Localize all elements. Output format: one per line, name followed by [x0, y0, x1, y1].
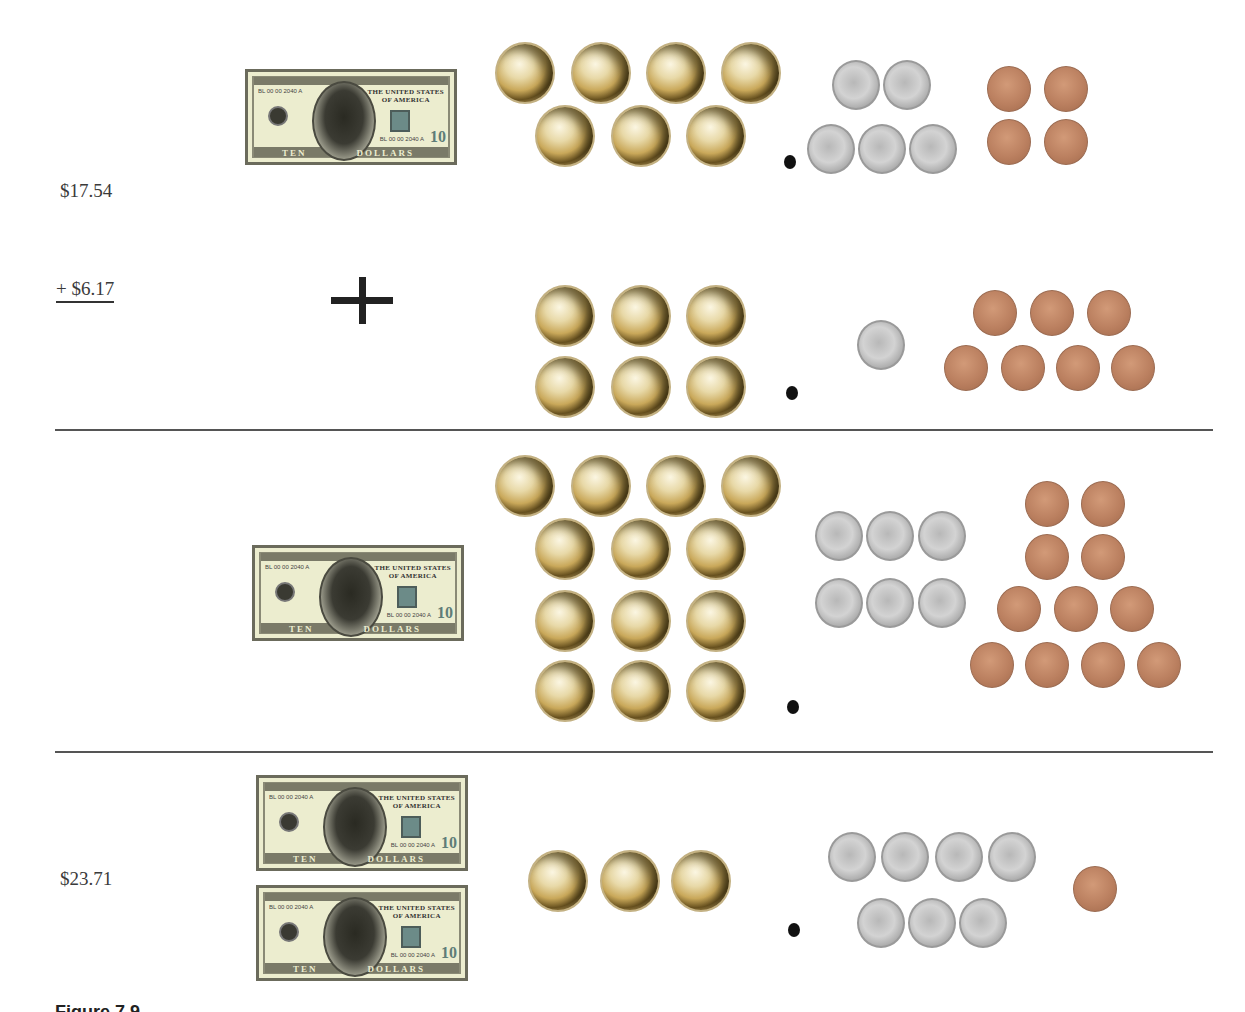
dollar-coin: [495, 455, 555, 517]
dime: [815, 511, 863, 561]
divider-line: [55, 751, 1213, 753]
dollar-coin: [535, 590, 595, 652]
ten-dollar-bill: BL 00 00 2040 A THE UNITED STATESOF AMER…: [256, 775, 468, 871]
dollar-coin: [535, 285, 595, 347]
dime: [866, 511, 914, 561]
dime: [918, 511, 966, 561]
ten-dollar-bill: BL 00 00 2040 A THE UNITED STATESOF AMER…: [252, 545, 464, 641]
dollar-coin: [646, 42, 706, 104]
dollar-coin: [686, 660, 746, 722]
penny: [1073, 866, 1117, 912]
dollar-coin: [686, 285, 746, 347]
dime: [909, 124, 957, 174]
amount-label-17-54: $17.54: [60, 180, 112, 202]
dollar-coin: [535, 105, 595, 167]
penny: [1081, 642, 1125, 688]
dollar-coin: [611, 105, 671, 167]
dollar-coin: [686, 590, 746, 652]
penny: [1110, 586, 1154, 632]
dollar-coin: [611, 356, 671, 418]
dollar-coin: [611, 518, 671, 580]
seal-icon: [268, 106, 288, 126]
dollar-coin: [528, 850, 588, 912]
penny: [987, 66, 1031, 112]
penny: [1025, 534, 1069, 580]
dime: [959, 898, 1007, 948]
dime: [918, 578, 966, 628]
dollar-coin: [721, 42, 781, 104]
decimal-point: [786, 386, 798, 400]
dollar-coin: [571, 42, 631, 104]
dime: [832, 60, 880, 110]
penny: [1087, 290, 1131, 336]
dollar-coin: [611, 660, 671, 722]
penny: [1054, 586, 1098, 632]
dime: [881, 832, 929, 882]
dollar-coin: [721, 455, 781, 517]
seal-icon: [275, 582, 295, 602]
penny: [1001, 345, 1045, 391]
dime: [807, 124, 855, 174]
dime: [828, 832, 876, 882]
dollar-coin: [600, 850, 660, 912]
treasury-seal-icon: [390, 110, 410, 132]
ten-dollar-bill: BL 00 00 2040 A THE UNITED STATESOF AMER…: [245, 69, 457, 165]
penny: [987, 119, 1031, 165]
figure-caption: Figure 7.9: [55, 1002, 140, 1012]
penny: [970, 642, 1014, 688]
penny: [944, 345, 988, 391]
divider-line: [55, 429, 1213, 431]
treasury-seal-icon: [397, 586, 417, 608]
dollar-coin: [671, 850, 731, 912]
penny: [973, 290, 1017, 336]
penny: [1081, 481, 1125, 527]
penny: [997, 586, 1041, 632]
treasury-seal-icon: [401, 816, 421, 838]
dollar-coin: [535, 518, 595, 580]
dollar-coin: [686, 356, 746, 418]
dollar-coin: [535, 660, 595, 722]
penny: [1081, 534, 1125, 580]
penny: [1137, 642, 1181, 688]
ten-dollar-bill: BL 00 00 2040 A THE UNITED STATESOF AMER…: [256, 885, 468, 981]
dime: [935, 832, 983, 882]
penny: [1025, 642, 1069, 688]
treasury-seal-icon: [401, 926, 421, 948]
dollar-coin: [611, 590, 671, 652]
seal-icon: [279, 922, 299, 942]
seal-icon: [279, 812, 299, 832]
dollar-coin: [686, 105, 746, 167]
penny: [1111, 345, 1155, 391]
penny: [1030, 290, 1074, 336]
penny: [1025, 481, 1069, 527]
dime: [883, 60, 931, 110]
dime: [988, 832, 1036, 882]
dollar-coin: [495, 42, 555, 104]
dime: [815, 578, 863, 628]
amount-label-plus-6-17: + $6.17: [56, 278, 114, 303]
decimal-point: [787, 700, 799, 714]
penny: [1044, 66, 1088, 112]
dollar-coin: [611, 285, 671, 347]
dollar-coin: [571, 455, 631, 517]
penny: [1044, 119, 1088, 165]
dime: [858, 124, 906, 174]
dollar-coin: [646, 455, 706, 517]
decimal-point: [784, 155, 796, 169]
dime: [857, 320, 905, 370]
penny: [1056, 345, 1100, 391]
dollar-coin: [535, 356, 595, 418]
dime: [908, 898, 956, 948]
dime: [857, 898, 905, 948]
decimal-point: [788, 923, 800, 937]
dime: [866, 578, 914, 628]
amount-label-23-71: $23.71: [60, 868, 112, 890]
dollar-coin: [686, 518, 746, 580]
